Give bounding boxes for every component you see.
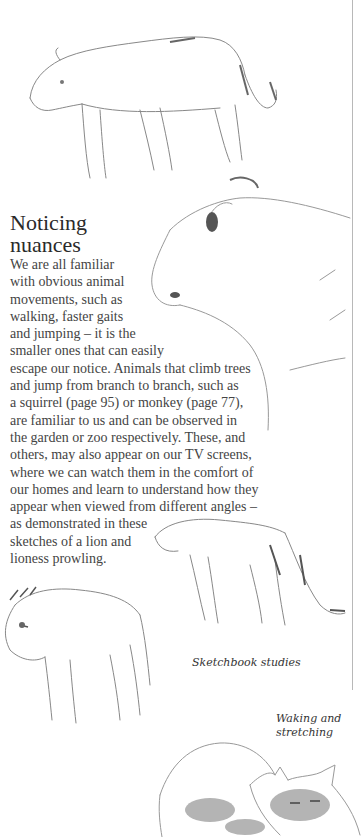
body-line: are familiar to us and can be observed i… xyxy=(10,412,355,429)
body-line: and jump from branch to branch, such as xyxy=(10,377,355,394)
lion-sketch xyxy=(0,585,160,725)
body-line: escape our notice. Animals that climb tr… xyxy=(10,360,355,377)
body-line: our homes and learn to understand how th… xyxy=(10,481,355,498)
title-line-2: nuances xyxy=(10,234,87,256)
body-line: appear when viewed from different angles… xyxy=(10,498,355,515)
lioness-prowling-sketch xyxy=(150,515,350,630)
sketchbook-caption: Sketchbook studies xyxy=(192,656,301,669)
title-line-1: Noticing xyxy=(10,212,87,234)
body-line: a squirrel (page 95) or monkey (page 77)… xyxy=(10,394,355,411)
body-line: smaller ones that can easily xyxy=(10,342,355,359)
body-line: others, may also appear on our TV screen… xyxy=(10,446,355,463)
cat-stretching-sketch xyxy=(150,715,363,837)
body-line: with obvious animal xyxy=(10,273,355,290)
body-line: movements, such as xyxy=(10,291,355,308)
body-line: and jumping – it is the xyxy=(10,325,355,342)
body-line: the garden or zoo respectively. These, a… xyxy=(10,429,355,446)
body-line: We are all familiar xyxy=(10,256,355,273)
article-title: Noticing nuances xyxy=(10,212,87,256)
body-line: walking, faster gaits xyxy=(10,308,355,325)
lioness-walking-sketch xyxy=(20,20,280,190)
body-line: where we can watch them in the comfort o… xyxy=(10,464,355,481)
